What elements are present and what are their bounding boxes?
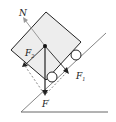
roller-upper xyxy=(71,50,81,60)
label-normal: N xyxy=(18,8,28,18)
force-diagram: N F2 F1 F' xyxy=(0,0,116,122)
center-of-mass-dot xyxy=(43,44,47,48)
roller-lower xyxy=(47,72,57,82)
label-f1: F1 xyxy=(75,71,85,82)
label-weight: F' xyxy=(41,98,50,109)
